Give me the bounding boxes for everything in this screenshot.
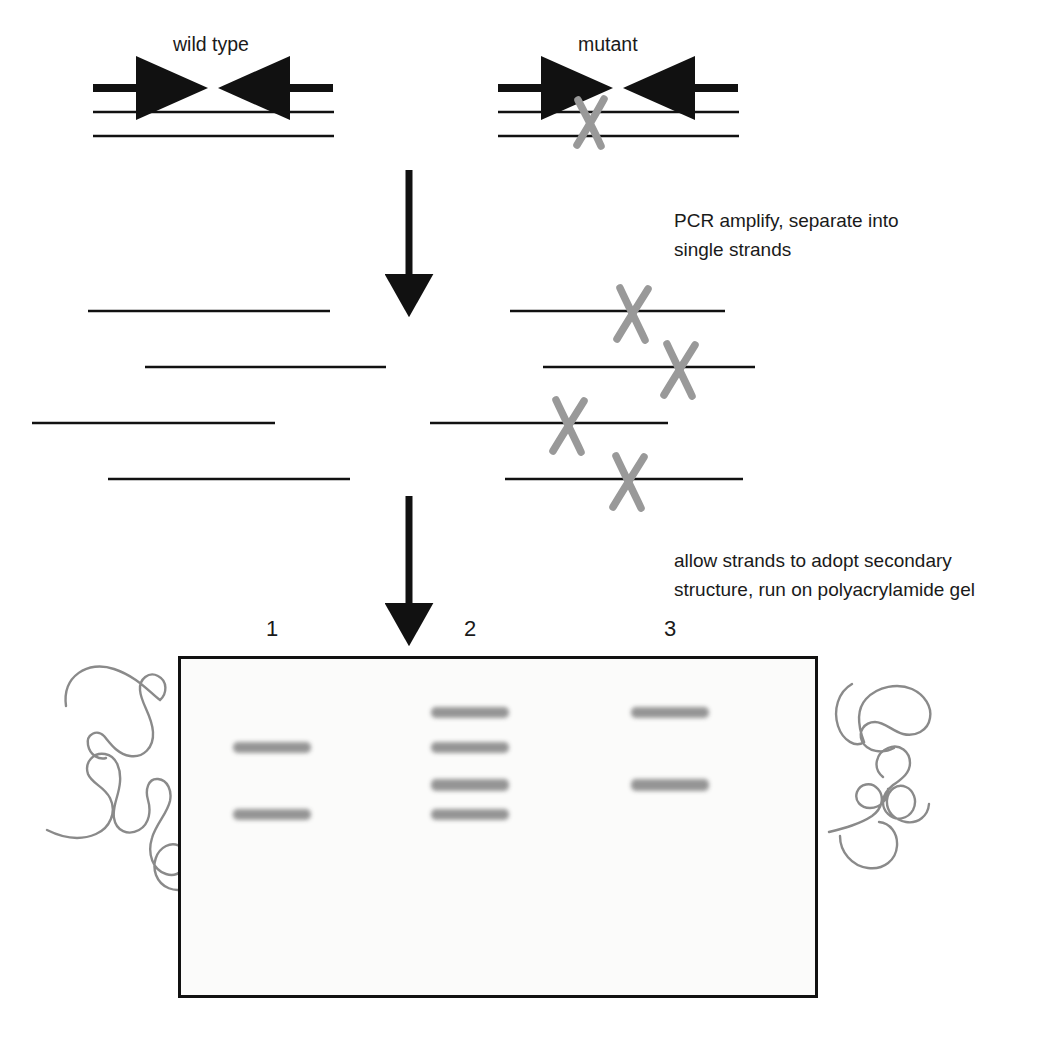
gel-band bbox=[431, 742, 509, 753]
conformer-squiggles-left bbox=[47, 667, 187, 890]
gel-band bbox=[233, 809, 311, 820]
gel-band bbox=[431, 779, 509, 791]
conformer-squiggle-left-2 bbox=[47, 754, 187, 890]
gel-band bbox=[631, 707, 709, 718]
conformer-squiggle-right-1 bbox=[836, 684, 930, 751]
gel-band bbox=[631, 779, 709, 791]
gel-band bbox=[233, 742, 311, 753]
mutation-x-icon-strand-3 bbox=[553, 400, 584, 452]
conformer-squiggles-right bbox=[829, 684, 930, 868]
gel-band bbox=[431, 809, 509, 820]
mutant-single-strands bbox=[430, 288, 755, 508]
gel-lanes-container bbox=[181, 659, 815, 995]
mutation-x-icon-strand-1 bbox=[617, 288, 648, 340]
conformer-squiggle-left-1 bbox=[66, 667, 166, 759]
mutation-x-icon bbox=[577, 99, 604, 146]
mutant-duplex bbox=[498, 88, 739, 146]
gel-band bbox=[431, 707, 509, 718]
mutation-x-icon-strand-4 bbox=[613, 456, 644, 508]
conformer-squiggle-right-2 bbox=[829, 747, 929, 869]
polyacrylamide-gel bbox=[178, 656, 818, 998]
wild-type-duplex bbox=[93, 88, 334, 136]
mutation-x-icon-strand-2 bbox=[664, 344, 695, 396]
sscp-workflow-figure: wild type mutant PCR amplify, separate i… bbox=[0, 0, 1056, 1049]
wild-type-single-strands bbox=[32, 311, 386, 479]
